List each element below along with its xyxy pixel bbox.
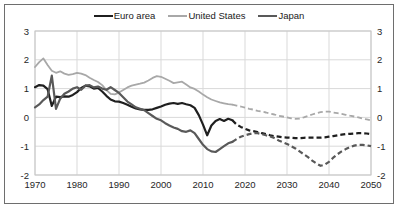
- y-tick-left-1: 1: [24, 83, 29, 94]
- chart-figure: Euro area United States Japan -2-2-1-100…: [0, 0, 398, 208]
- x-tick-2050: 2050: [360, 179, 381, 190]
- x-tick-1990: 1990: [108, 179, 129, 190]
- x-tick-2010: 2010: [192, 179, 213, 190]
- y-tick-left-2: 2: [24, 54, 29, 65]
- series-united-states-projection: [232, 105, 371, 121]
- x-tick-2020: 2020: [234, 179, 255, 190]
- y-tick-right--1: -1: [377, 141, 385, 152]
- y-tick-left-0: 0: [24, 112, 29, 123]
- plot-area: -2-2-1-100112233197019801990200020102020…: [0, 0, 398, 208]
- x-tick-2040: 2040: [318, 179, 339, 190]
- y-tick-right-2: 2: [377, 54, 382, 65]
- y-tick-right-3: 3: [377, 26, 382, 37]
- x-tick-2000: 2000: [150, 179, 171, 190]
- y-tick-right-0: 0: [377, 112, 382, 123]
- x-tick-1970: 1970: [24, 179, 45, 190]
- series-euro-area-projection: [232, 120, 371, 138]
- x-tick-1980: 1980: [66, 179, 87, 190]
- y-tick-left-3: 3: [24, 26, 29, 37]
- y-tick-left--1: -1: [21, 141, 29, 152]
- y-tick-right-1: 1: [377, 83, 382, 94]
- x-tick-2030: 2030: [276, 179, 297, 190]
